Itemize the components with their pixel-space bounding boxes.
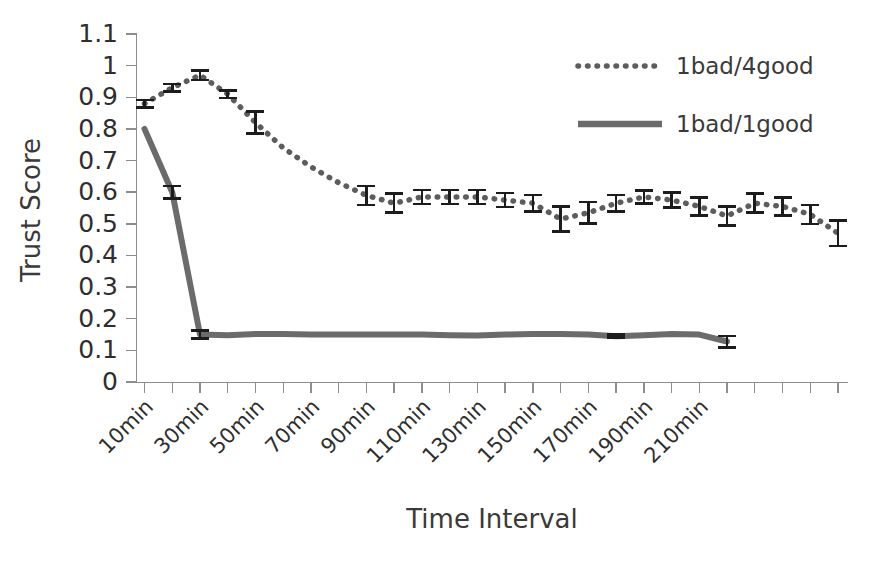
- y-tick-label: 0: [102, 367, 118, 396]
- y-tick-label: 0.7: [78, 146, 118, 175]
- trust-score-chart: 1.110.90.80.70.60.50.40.30.20.10 10min30…: [0, 0, 874, 570]
- error-bar: [829, 221, 847, 246]
- error-bar: [136, 100, 154, 108]
- x-axis-ticks: [145, 383, 839, 394]
- error-bar: [163, 186, 181, 199]
- error-bar: [219, 90, 237, 98]
- y-tick-label: 0.6: [78, 177, 118, 206]
- x-axis-title: Time Interval: [405, 504, 577, 534]
- y-tick-label: 0.8: [78, 114, 118, 143]
- y-tick-label: 1: [102, 51, 118, 80]
- y-tick-label: 0.4: [78, 240, 118, 269]
- y-tick-label: 0.5: [78, 209, 118, 238]
- x-axis-tick-labels: 10min30min50min70min90min110min130min150…: [94, 395, 713, 468]
- y-tick-label: 0.1: [78, 335, 118, 364]
- y-tick-label: 0.9: [78, 82, 118, 111]
- y-axis-tick-labels: 1.110.90.80.70.60.50.40.30.20.10: [78, 19, 118, 396]
- legend-label-1bad1good: 1bad/1good: [676, 111, 814, 137]
- series-line-1bad4good: [145, 75, 839, 233]
- y-axis-ticks: [126, 34, 137, 382]
- y-tick-label: 1.1: [78, 19, 118, 48]
- x-tick-label: 50min: [205, 395, 269, 459]
- error-bar: [746, 194, 764, 213]
- y-axis-title: Trust Score: [16, 138, 46, 283]
- x-tick-label: 30min: [150, 395, 214, 459]
- legend: 1bad/4good 1bad/1good: [578, 53, 814, 137]
- chart-svg: 1.110.90.80.70.60.50.40.30.20.10 10min30…: [0, 0, 874, 570]
- y-tick-label: 0.2: [78, 304, 118, 333]
- y-tick-label: 0.3: [78, 272, 118, 301]
- series-line-1bad1good: [145, 129, 728, 342]
- legend-label-1bad4good: 1bad/4good: [676, 53, 814, 79]
- x-tick-label: 10min: [94, 395, 158, 459]
- x-tick-label: 70min: [261, 395, 325, 459]
